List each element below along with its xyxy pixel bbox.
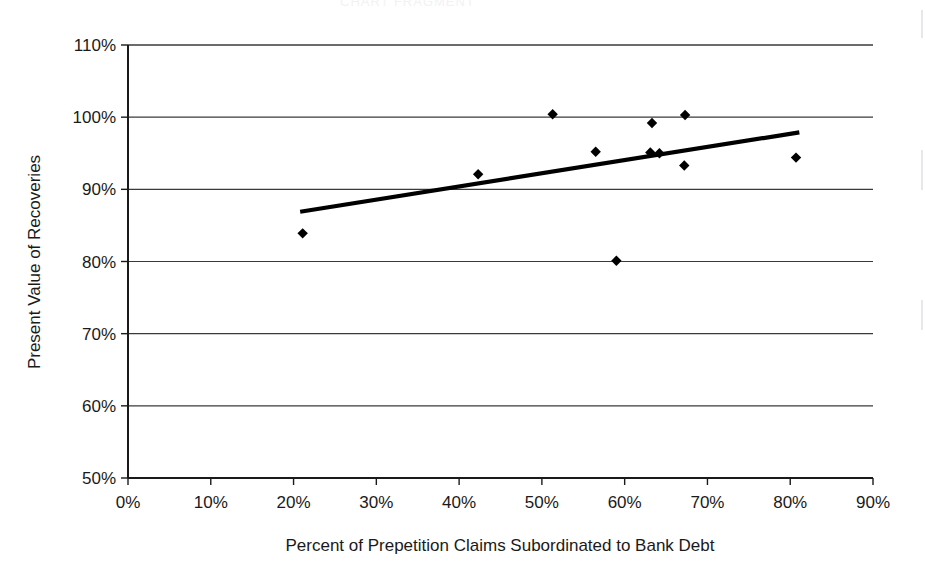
data-point [647, 118, 657, 128]
y-tick-label: 100% [73, 108, 116, 127]
data-point [297, 228, 307, 238]
y-tick-label-group: 50%60%70%80%90%100%110% [73, 36, 116, 488]
data-point [679, 160, 689, 170]
x-tick-label: 10% [194, 493, 228, 512]
y-tick-label: 90% [82, 180, 116, 199]
x-tick-label: 20% [277, 493, 311, 512]
x-tick-label: 80% [773, 493, 807, 512]
data-point [680, 110, 690, 120]
y-axis-title: Present Value of Recoveries [25, 155, 44, 369]
y-tick-label: 50% [82, 469, 116, 488]
x-tick-label: 50% [525, 493, 559, 512]
x-tick-label: 30% [359, 493, 393, 512]
x-tick-label-group: 0%10%20%30%40%50%60%70%80%90% [116, 493, 890, 512]
y-tick-label: 80% [82, 253, 116, 272]
y-tick-label: 60% [82, 397, 116, 416]
y-tick-label: 70% [82, 325, 116, 344]
trendline-segment [300, 132, 799, 211]
x-tick-label: 70% [690, 493, 724, 512]
data-point [590, 147, 600, 157]
chart-figure: CHART FRAGMENT 50%60%70%80%90%100%110% 0… [0, 0, 925, 588]
x-tick-label: 0% [116, 493, 141, 512]
x-axis-title: Percent of Prepetition Claims Subordinat… [285, 536, 714, 555]
data-point [547, 109, 557, 119]
gridline-group [128, 45, 873, 478]
y-tick-label: 110% [74, 36, 116, 55]
y-tick-group [121, 45, 128, 478]
x-tick-label: 40% [442, 493, 476, 512]
data-point-group [297, 109, 801, 266]
data-point [791, 152, 801, 162]
x-tick-label: 60% [608, 493, 642, 512]
data-point [473, 169, 483, 179]
trendline [300, 132, 799, 211]
x-tick-group [128, 478, 873, 485]
scatter-plot: 50%60%70%80%90%100%110% 0%10%20%30%40%50… [0, 0, 925, 588]
x-tick-label: 90% [856, 493, 890, 512]
data-point [611, 256, 621, 266]
